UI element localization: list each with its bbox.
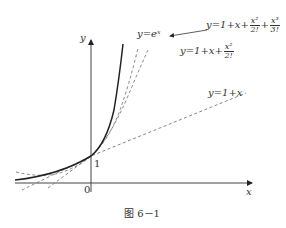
figure-caption: 图 6－1 [124, 205, 160, 220]
frac-den: 2! [224, 52, 234, 60]
curve-linear [48, 93, 246, 188]
plus-sign: + [261, 19, 269, 30]
origin-label: 0 [84, 184, 90, 195]
label-taylor3: y=1+x+x²2!+x³3! [206, 17, 281, 34]
x-axis-label: x [246, 186, 252, 197]
label-taylor2-prefix: y=1+x+ [180, 45, 223, 56]
label-taylor3-prefix: y=1+x+ [206, 19, 249, 30]
frac-den: 3! [270, 26, 280, 34]
label-pointer [170, 30, 207, 36]
figure-6-1: y x 0 1 y=eˣ y=1+x+x²2!+x³3! y=1+x+x²2! … [0, 0, 286, 228]
y-axis-label: y [80, 32, 86, 43]
curve-taylor2 [16, 50, 148, 175]
label-exp: y=eˣ [137, 28, 161, 39]
curve-exp [15, 44, 123, 180]
label-taylor2: y=1+x+x²2! [180, 43, 235, 60]
frac-den: 2! [250, 26, 260, 34]
y-intercept-label: 1 [94, 158, 100, 169]
label-linear: y=1+x [208, 87, 242, 98]
